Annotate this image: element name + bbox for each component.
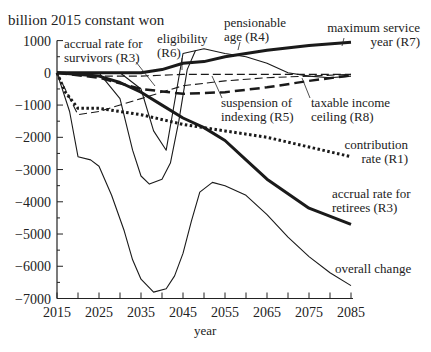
label-r3-survivors: accrual rate for: [64, 36, 143, 51]
x-tick-label: 2045: [169, 305, 197, 320]
label-r3-survivors-2: survivors (R3): [64, 50, 139, 65]
label-r6-2: (R6): [157, 45, 181, 60]
label-r7-2: year (R7): [371, 34, 420, 49]
label-r8-2: ceiling (R8): [311, 109, 373, 124]
label-r5: suspension of: [221, 95, 293, 110]
label-r3-retirees: accrual rate for: [332, 186, 411, 201]
series-contribution-rate-r1: [57, 73, 351, 157]
x-tick-label: 2035: [127, 305, 155, 320]
x-tick-label: 2055: [211, 305, 239, 320]
series-overall-change: [57, 73, 351, 292]
y-axis-title: billion 2015 constant won: [8, 12, 165, 28]
label-r1-2: rate (R1): [361, 151, 408, 166]
y-tick-label: 1000: [23, 34, 51, 49]
y-tick-label: −6000: [15, 259, 51, 274]
x-tick-label: 2075: [295, 305, 323, 320]
series-suspension-of-indexing-r5: [57, 73, 351, 115]
y-tick-label: 0: [44, 66, 51, 81]
series-eligibility-r6: [57, 50, 196, 184]
label-r8: taxable income: [311, 95, 390, 110]
y-tick-label: −3000: [15, 163, 51, 178]
x-tick-label: 2025: [85, 305, 113, 320]
series-accrual-rate-for-retirees-r3: [57, 73, 351, 225]
label-r4: pensionable: [224, 15, 286, 30]
label-overall: overall change: [335, 261, 411, 276]
x-axis-title: year: [194, 323, 217, 338]
label-r7: maximum service: [327, 20, 420, 35]
label-r6: eligibility: [157, 31, 208, 46]
x-tick-label: 2015: [43, 305, 71, 320]
series-lines: [57, 42, 351, 292]
pension-reform-line-chart: billion 2015 constant won 10000−1000−200…: [0, 0, 431, 352]
y-tick-label: −4000: [15, 195, 51, 210]
label-r4-2: age (R4): [224, 29, 269, 44]
y-tick-label: −1000: [15, 98, 51, 113]
x-tick-label: 2065: [253, 305, 281, 320]
label-r5-2: indexing (R5): [221, 109, 294, 124]
label-r1: contribution: [344, 137, 408, 152]
x-tick-label: 2085: [337, 305, 365, 320]
y-tick-label: −5000: [15, 227, 51, 242]
label-r3-retirees-2: retirees (R3): [332, 200, 397, 215]
y-tick-label: −2000: [15, 130, 51, 145]
